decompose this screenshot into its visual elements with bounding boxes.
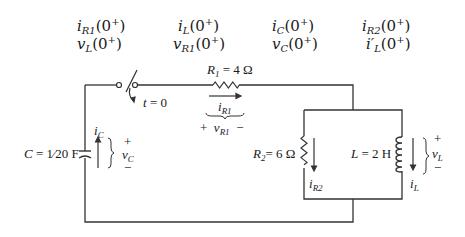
brace-vC bbox=[108, 138, 114, 168]
label-r2: R2= 6 Ω bbox=[253, 146, 295, 163]
label-r1: R1 = 4 Ω bbox=[207, 62, 253, 79]
label-switch: t = 0 bbox=[143, 95, 167, 111]
circuit-schematic bbox=[0, 0, 465, 237]
label-vL-plus: + bbox=[434, 131, 441, 147]
wire-inner-box bbox=[304, 110, 402, 137]
label-iR2: iR2 bbox=[309, 176, 323, 193]
label-vC-minus: − bbox=[124, 160, 131, 176]
inductor-l bbox=[396, 137, 402, 172]
label-vL-minus: − bbox=[434, 160, 441, 176]
label-iC: iC bbox=[94, 123, 104, 140]
arrow-iR2 bbox=[312, 138, 317, 171]
arrow-iC bbox=[96, 137, 101, 168]
arrow-iL bbox=[411, 138, 416, 170]
label-iR1: iR1 bbox=[218, 99, 232, 116]
brace-vL bbox=[423, 138, 429, 174]
label-iL: iL bbox=[410, 176, 419, 193]
label-c: C = 1⁄20 F bbox=[24, 146, 79, 162]
wire-top-right bbox=[239, 85, 353, 110]
resistor-r2 bbox=[301, 136, 307, 165]
switch bbox=[117, 70, 138, 102]
label-l: L = 2 H bbox=[351, 146, 391, 162]
resistor-r1 bbox=[213, 82, 239, 88]
capacitor-c bbox=[79, 151, 91, 158]
arrow-iR1 bbox=[209, 94, 241, 99]
label-vR1: + vR1 − bbox=[200, 120, 243, 137]
